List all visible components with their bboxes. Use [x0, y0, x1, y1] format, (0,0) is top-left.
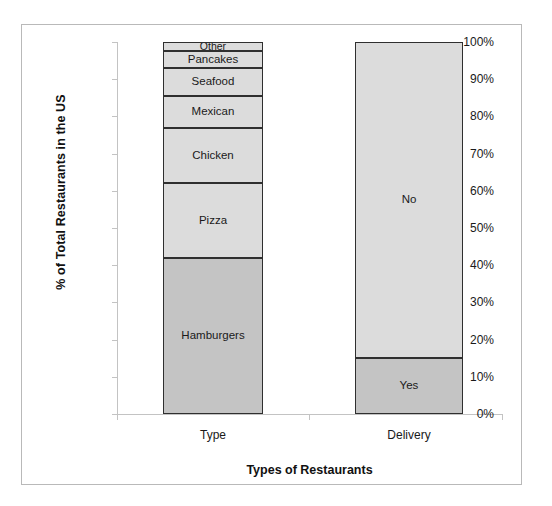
y-tick-mark [112, 79, 117, 80]
bar-segment[interactable]: Pizza [163, 183, 263, 257]
y-tick-mark [112, 265, 117, 266]
x-axis-title: Types of Restaurants [117, 463, 502, 477]
x-tick-mark [502, 414, 503, 420]
chart-title [0, 0, 552, 6]
y-tick-mark [112, 42, 117, 43]
bar-segment-label: Yes [400, 380, 419, 392]
bar-segment[interactable]: Seafood [163, 68, 263, 96]
bar-segment-label: Hamburgers [181, 330, 244, 342]
bar-segment-label: Seafood [192, 76, 235, 88]
bar-segment[interactable]: Yes [355, 358, 463, 414]
y-tick-mark [112, 116, 117, 117]
bar-segment[interactable]: No [355, 42, 463, 358]
x-category-label: Delivery [329, 428, 489, 442]
bar-segment-label: No [402, 194, 417, 206]
y-tick-mark [112, 154, 117, 155]
plot-area: 0%10%20%30%40%50%60%70%80%90%100% Hambur… [117, 42, 502, 414]
y-tick-mark [112, 228, 117, 229]
x-category-label: Type [133, 428, 293, 442]
x-tick-mark [117, 414, 118, 420]
chart-frame: % of Total Restaurants in the US 0%10%20… [21, 24, 522, 485]
bar-segment[interactable]: Mexican [163, 96, 263, 128]
bar-segment-label: Pizza [199, 215, 227, 227]
bar-segment[interactable]: Pancakes [163, 51, 263, 68]
bar-segment[interactable]: Hamburgers [163, 258, 263, 414]
bar-segment-label: Pancakes [188, 54, 239, 66]
y-tick-mark [112, 340, 117, 341]
y-axis-line [117, 42, 118, 414]
bar-segment[interactable]: Chicken [163, 128, 263, 184]
x-tick-mark [309, 414, 310, 420]
bar-segment-label: Mexican [192, 106, 235, 118]
bar-segment-label: Chicken [192, 150, 234, 162]
y-tick-mark [112, 377, 117, 378]
stacked-bar[interactable]: YesNo [355, 42, 463, 414]
bar-segment-label: Other [200, 42, 226, 51]
stacked-bar[interactable]: HamburgersPizzaChickenMexicanSeafoodPanc… [163, 42, 263, 414]
y-tick-mark [112, 191, 117, 192]
y-axis-title: % of Total Restaurants in the US [54, 47, 68, 337]
y-tick-mark [112, 302, 117, 303]
bar-segment[interactable]: Other [163, 42, 263, 51]
